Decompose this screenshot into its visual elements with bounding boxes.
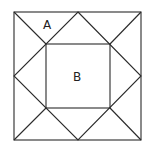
diagonal-top-right — [110, 12, 141, 44]
quilt-block-diagram: A B — [0, 0, 152, 152]
label-b: B — [73, 70, 81, 84]
label-a: A — [43, 18, 52, 32]
diagonal-bottom-right — [110, 108, 141, 140]
diagonal-top-left — [14, 12, 46, 44]
diagonal-bottom-left — [14, 108, 46, 140]
